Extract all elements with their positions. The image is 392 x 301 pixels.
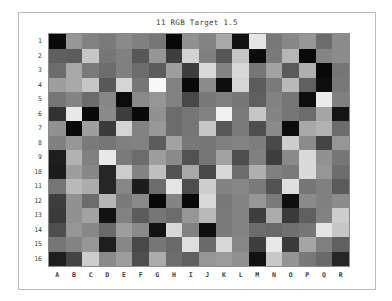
heatmap-cell: [299, 223, 316, 238]
heatmap-cell: [99, 49, 116, 64]
heatmap-cell: [166, 165, 183, 180]
heatmap-cell: [149, 136, 166, 151]
heatmap-cell: [199, 150, 216, 165]
row-tick-label: 16: [21, 252, 45, 267]
heatmap-cell: [216, 34, 233, 49]
heatmap-cell: [316, 165, 333, 180]
heatmap-cell: [66, 208, 83, 223]
column-tick-label: O: [282, 268, 299, 282]
heatmap-cell: [116, 92, 133, 107]
heatmap-cell: [232, 223, 249, 238]
heatmap-cell: [116, 49, 133, 64]
heatmap-cell: [149, 208, 166, 223]
heatmap-cell: [49, 78, 66, 93]
heatmap-cell: [316, 34, 333, 49]
heatmap-cell: [266, 150, 283, 165]
heatmap-cell: [316, 179, 333, 194]
heatmap-cell: [66, 237, 83, 252]
heatmap-cell: [266, 136, 283, 151]
heatmap-cell: [182, 92, 199, 107]
heatmap-cell: [82, 165, 99, 180]
heatmap-cell: [66, 49, 83, 64]
heatmap-cell: [316, 208, 333, 223]
row-tick-label: 3: [21, 63, 45, 78]
heatmap-cell: [249, 252, 266, 267]
heatmap-cell: [82, 136, 99, 151]
heatmap-cell: [316, 49, 333, 64]
heatmap-cell: [232, 49, 249, 64]
heatmap-cell: [282, 223, 299, 238]
column-tick-label: J: [199, 268, 216, 282]
heatmap-cell: [99, 78, 116, 93]
heatmap-cell: [116, 78, 133, 93]
heatmap-cell: [332, 150, 349, 165]
heatmap-cell: [82, 121, 99, 136]
plot-area: 12345678910111213141516 ABCDEFGHIJKLMNOP…: [49, 34, 349, 266]
heatmap-cell: [66, 92, 83, 107]
heatmap-cell: [216, 121, 233, 136]
heatmap-cell: [232, 34, 249, 49]
heatmap-cell: [249, 34, 266, 49]
heatmap-cell: [166, 150, 183, 165]
heatmap-cell: [82, 63, 99, 78]
column-tick-label: R: [332, 268, 349, 282]
column-tick-label: Q: [316, 268, 333, 282]
figure-panel: 11 RGB Target 1.5 1234567891011121314151…: [18, 12, 376, 290]
column-tick-label: H: [166, 268, 183, 282]
heatmap-cell: [99, 92, 116, 107]
heatmap-cell: [216, 194, 233, 209]
heatmap-cell: [149, 34, 166, 49]
heatmap-cell: [49, 208, 66, 223]
heatmap-cell: [149, 92, 166, 107]
heatmap-cell: [316, 107, 333, 122]
heatmap-cell: [49, 237, 66, 252]
heatmap-cell: [182, 194, 199, 209]
heatmap-cell: [99, 150, 116, 165]
heatmap-cell: [66, 252, 83, 267]
heatmap-cell: [82, 208, 99, 223]
heatmap-cell: [332, 136, 349, 151]
heatmap-cell: [232, 63, 249, 78]
heatmap-cell: [149, 194, 166, 209]
column-tick-label: C: [82, 268, 99, 282]
heatmap-cell: [116, 237, 133, 252]
heatmap-cell: [132, 34, 149, 49]
heatmap-cell: [99, 121, 116, 136]
heatmap-cell: [232, 150, 249, 165]
heatmap-cell: [116, 165, 133, 180]
column-tick-label: I: [182, 268, 199, 282]
heatmap-cell: [116, 136, 133, 151]
row-tick-label: 2: [21, 49, 45, 64]
heatmap-cell: [82, 194, 99, 209]
heatmap-cell: [216, 78, 233, 93]
heatmap-cell: [266, 165, 283, 180]
heatmap-cell: [82, 107, 99, 122]
heatmap-cell: [299, 194, 316, 209]
column-tick-label: G: [149, 268, 166, 282]
heatmap-cell: [316, 150, 333, 165]
heatmap-cell: [332, 121, 349, 136]
heatmap-cell: [166, 223, 183, 238]
heatmap-cell: [216, 63, 233, 78]
heatmap-cell: [99, 208, 116, 223]
heatmap-cell: [332, 208, 349, 223]
row-tick-label: 14: [21, 223, 45, 238]
heatmap-cell: [232, 252, 249, 267]
heatmap-cell: [249, 150, 266, 165]
heatmap-cell: [299, 92, 316, 107]
column-tick-label: A: [49, 268, 66, 282]
heatmap-cell: [182, 34, 199, 49]
heatmap-cell: [132, 78, 149, 93]
heatmap-cell: [182, 208, 199, 223]
heatmap-cell: [66, 223, 83, 238]
heatmap-cell: [216, 237, 233, 252]
heatmap-cell: [182, 63, 199, 78]
heatmap-cell: [299, 136, 316, 151]
heatmap-cell: [182, 237, 199, 252]
heatmap-cell: [166, 63, 183, 78]
heatmap-cell: [49, 107, 66, 122]
heatmap-cell: [316, 223, 333, 238]
heatmap-cell: [116, 252, 133, 267]
heatmap-cell: [216, 107, 233, 122]
heatmap-cell: [166, 237, 183, 252]
